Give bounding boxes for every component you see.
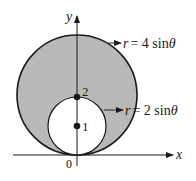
inner-curve-label: r= 2 sinθ	[125, 103, 178, 118]
diagram-svg: y x 0 2 1 r= 4 sinθ r= 2 sinθ	[0, 0, 196, 181]
polar-region-diagram: y x 0 2 1 r= 4 sinθ r= 2 sinθ	[0, 0, 196, 181]
point-2	[74, 94, 81, 101]
y-axis-label: y	[64, 9, 73, 24]
point-1-label: 1	[82, 119, 89, 134]
x-axis-label: x	[175, 147, 183, 162]
outer-curve-label: r= 4 sinθ	[123, 36, 176, 51]
origin-label: 0	[66, 157, 72, 171]
point-2-label: 2	[82, 84, 89, 99]
point-1	[74, 123, 81, 130]
